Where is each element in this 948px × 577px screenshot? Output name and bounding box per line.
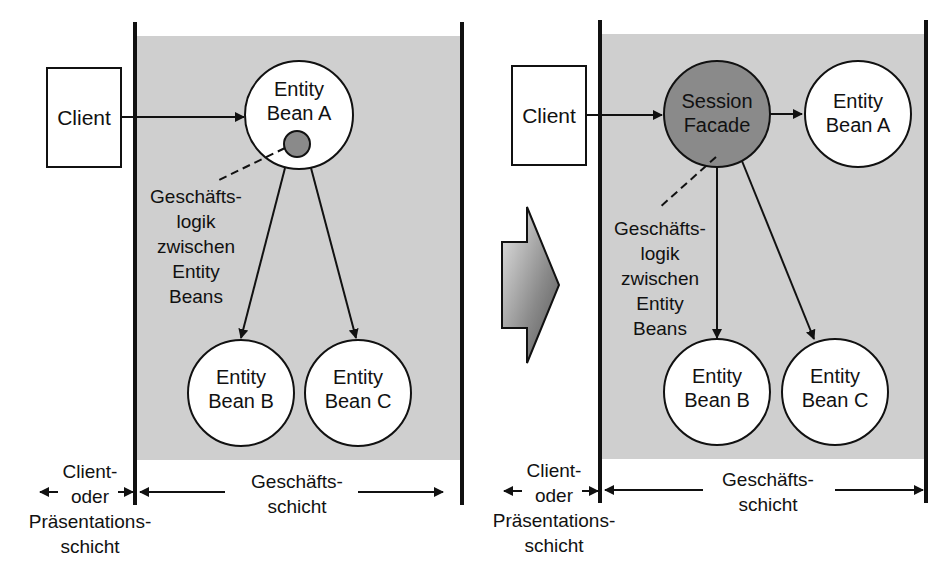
svg-text:Client-: Client- bbox=[527, 460, 582, 481]
svg-text:schicht: schicht bbox=[267, 496, 327, 517]
svg-text:Präsentations-: Präsentations- bbox=[29, 511, 152, 532]
svg-text:Bean C: Bean C bbox=[802, 389, 869, 411]
entity-bean-b: Entity Bean B bbox=[188, 340, 294, 446]
svg-text:Beans: Beans bbox=[169, 286, 223, 307]
business-tier-label: Geschäfts- schicht bbox=[722, 469, 814, 515]
svg-text:Entity: Entity bbox=[692, 365, 742, 387]
svg-text:Geschäfts-: Geschäfts- bbox=[251, 471, 343, 492]
svg-text:logik: logik bbox=[176, 211, 216, 232]
svg-text:Entity: Entity bbox=[216, 366, 266, 388]
svg-text:schicht: schicht bbox=[524, 535, 584, 556]
svg-text:Geschäfts-: Geschäfts- bbox=[150, 186, 242, 207]
svg-text:Client: Client bbox=[522, 104, 576, 127]
svg-text:oder: oder bbox=[71, 486, 110, 507]
svg-text:Entity: Entity bbox=[636, 293, 684, 314]
svg-text:Bean A: Bean A bbox=[826, 114, 891, 136]
client-box: Client bbox=[47, 68, 121, 167]
session-facade: Session Facade bbox=[664, 61, 770, 167]
left-diagram: Client Entity Bean A Geschäfts- logik zw… bbox=[29, 22, 462, 557]
entity-bean-c: Entity Bean C bbox=[305, 340, 411, 446]
entity-bean-c: Entity Bean C bbox=[782, 339, 888, 445]
svg-text:Bean B: Bean B bbox=[684, 389, 750, 411]
client-tier-label: Client- oder Präsentations- schicht bbox=[29, 461, 152, 557]
svg-text:Bean A: Bean A bbox=[267, 102, 332, 124]
svg-text:Entity: Entity bbox=[833, 90, 883, 112]
svg-text:Beans: Beans bbox=[633, 318, 687, 339]
svg-text:schicht: schicht bbox=[738, 494, 798, 515]
entity-bean-b: Entity Bean B bbox=[664, 339, 770, 445]
svg-text:Client-: Client- bbox=[63, 461, 118, 482]
business-logic-dot bbox=[284, 131, 310, 157]
svg-text:zwischen: zwischen bbox=[621, 268, 699, 289]
client-box: Client bbox=[512, 66, 586, 165]
entity-bean-a: Entity Bean A bbox=[245, 61, 353, 169]
svg-text:logik: logik bbox=[640, 243, 680, 264]
business-tier-label: Geschäfts- schicht bbox=[251, 471, 343, 517]
svg-text:Bean C: Bean C bbox=[325, 390, 392, 412]
session-facade-diagram: Client Entity Bean A Geschäfts- logik zw… bbox=[0, 0, 948, 577]
svg-text:Client: Client bbox=[57, 106, 111, 129]
svg-text:Geschäfts-: Geschäfts- bbox=[722, 469, 814, 490]
svg-text:Session: Session bbox=[681, 90, 752, 112]
svg-text:Entity: Entity bbox=[810, 365, 860, 387]
client-tier-label: Client- oder Präsentations- schicht bbox=[493, 460, 616, 556]
svg-text:zwischen: zwischen bbox=[157, 236, 235, 257]
svg-text:schicht: schicht bbox=[60, 536, 120, 557]
svg-text:oder: oder bbox=[535, 485, 574, 506]
entity-bean-a: Entity Bean A bbox=[805, 61, 911, 167]
svg-text:Entity: Entity bbox=[333, 366, 383, 388]
svg-text:Entity: Entity bbox=[172, 261, 220, 282]
svg-text:Entity: Entity bbox=[274, 78, 324, 100]
svg-text:Geschäfts-: Geschäfts- bbox=[614, 218, 706, 239]
svg-text:Bean B: Bean B bbox=[208, 390, 274, 412]
right-arrow-icon bbox=[502, 207, 559, 363]
svg-text:Facade: Facade bbox=[684, 114, 751, 136]
svg-text:Präsentations-: Präsentations- bbox=[493, 510, 616, 531]
